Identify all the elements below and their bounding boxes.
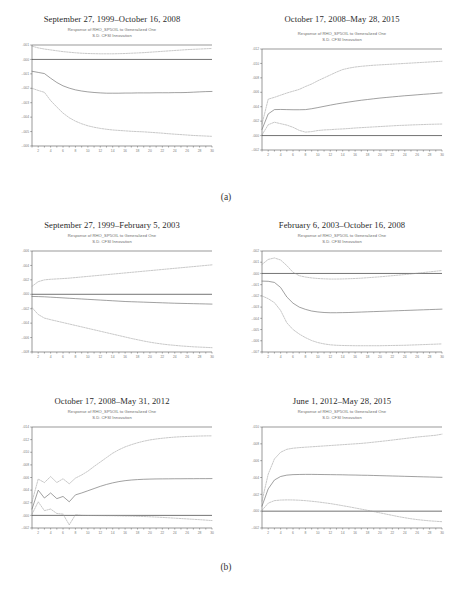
- x-axis-tick-label: 14: [111, 355, 115, 359]
- y-axis-tick-label: -.006: [21, 144, 29, 148]
- y-axis-tick-label: -.006: [251, 339, 259, 343]
- series-line-upper-band: [262, 258, 442, 279]
- x-axis-tick-label: 18: [136, 149, 140, 153]
- y-axis-tick-label: -.003: [251, 305, 259, 309]
- x-axis-tick-label: 28: [428, 355, 432, 359]
- x-axis-tick-label: 24: [403, 355, 407, 359]
- x-axis-tick-label: 16: [123, 355, 127, 359]
- series-line-upper-band: [32, 46, 212, 54]
- x-axis-tick-label: 2: [267, 355, 269, 359]
- x-axis-tick-label: 30: [440, 531, 444, 535]
- plot-area-2: .012.010.008.006.004.002.000-.0022468101…: [238, 45, 446, 163]
- x-axis-tick-label: 4: [50, 531, 52, 535]
- x-axis-tick-label: 16: [353, 531, 357, 535]
- chart-subtitle-3: Response of RHO_SP5OIL to Generalized On…: [8, 233, 216, 245]
- x-axis-tick-label: 8: [305, 355, 307, 359]
- y-axis-tick-label: .000: [23, 292, 30, 296]
- x-axis-tick-label: 20: [378, 153, 382, 157]
- y-axis-tick-label: .000: [23, 57, 30, 61]
- x-axis-tick-label: 8: [305, 531, 307, 535]
- plot-area-3: .006.004.002.000-.002-.004-.006-.0082468…: [8, 247, 216, 365]
- x-axis-tick-label: 14: [111, 149, 115, 153]
- series-line-lower-band: [32, 502, 212, 525]
- x-axis-tick-label: 24: [403, 531, 407, 535]
- y-axis-tick-label: .006: [253, 459, 260, 463]
- y-axis-tick-label: .002: [253, 249, 260, 253]
- chart-subtitle-line2: S.D. CFSI Innovation: [8, 239, 216, 245]
- plot-area-4: .002.001.000-.001-.002-.003-.004-.005-.0…: [238, 247, 446, 365]
- panel-label-b: (b): [0, 562, 452, 572]
- x-axis-tick-label: 6: [292, 355, 294, 359]
- x-axis-tick-label: 28: [428, 531, 432, 535]
- series-line-response: [262, 474, 442, 506]
- y-axis-tick-label: .002: [253, 119, 260, 123]
- y-axis-tick-label: .004: [253, 476, 260, 480]
- y-axis-tick-label: -.004: [21, 321, 29, 325]
- x-axis-tick-label: 22: [161, 355, 165, 359]
- y-axis-tick-label: .002: [23, 501, 30, 505]
- y-axis-tick-label: .010: [23, 450, 30, 454]
- x-axis-tick-label: 18: [366, 153, 370, 157]
- chart-cell-3: September 27, 1999–February 5, 2003 Resp…: [8, 220, 216, 365]
- x-axis-tick-label: 22: [391, 531, 395, 535]
- y-axis-tick-label: -.001: [21, 72, 29, 76]
- y-axis-tick-label: -.002: [21, 86, 29, 90]
- y-axis-tick-label: -.004: [21, 115, 29, 119]
- x-axis-tick-label: 26: [185, 149, 189, 153]
- series-line-lower-band: [262, 296, 442, 346]
- x-axis-tick-label: 12: [98, 149, 102, 153]
- plot-area-6: .010.008.006.004.002.000-.00224681012141…: [238, 423, 446, 541]
- x-axis-tick-label: 8: [75, 355, 77, 359]
- x-axis-tick-label: 2: [267, 531, 269, 535]
- x-axis-tick-label: 26: [415, 355, 419, 359]
- x-axis-tick-label: 12: [98, 355, 102, 359]
- chart-title-2: October 17, 2008–May 28, 2015: [238, 14, 446, 24]
- y-axis-tick-label: .004: [253, 105, 260, 109]
- x-axis-tick-label: 2: [37, 531, 39, 535]
- x-axis-tick-label: 22: [391, 153, 395, 157]
- chart-subtitle-line2: S.D. CFSI Innovation: [238, 415, 446, 421]
- x-axis-tick-label: 26: [185, 531, 189, 535]
- chart-subtitle-1: Response of RHO_SP5OIL to Generalized On…: [8, 27, 216, 39]
- y-axis-tick-label: .008: [253, 76, 260, 80]
- y-axis-tick-label: .000: [253, 134, 260, 138]
- series-line-upper-band: [262, 434, 442, 501]
- x-axis-tick-label: 20: [378, 355, 382, 359]
- series-line-response: [32, 478, 212, 508]
- y-axis-tick-label: .002: [23, 278, 30, 282]
- x-axis-tick-label: 24: [403, 153, 407, 157]
- chart-subtitle-5: Response of RHO_SP5OIL to Generalized On…: [8, 409, 216, 421]
- y-axis-tick-label: -.002: [21, 526, 29, 530]
- x-axis-tick-label: 14: [341, 153, 345, 157]
- y-axis-tick-label: -.004: [251, 316, 259, 320]
- x-axis-tick-label: 12: [328, 355, 332, 359]
- x-axis-tick-label: 18: [366, 531, 370, 535]
- chart-subtitle-line2: S.D. CFSI Innovation: [238, 37, 446, 43]
- x-axis-tick-label: 22: [161, 531, 165, 535]
- series-line-lower-band: [32, 88, 212, 136]
- x-axis-tick-label: 20: [148, 531, 152, 535]
- x-axis-tick-label: 22: [391, 355, 395, 359]
- x-axis-tick-label: 14: [341, 531, 345, 535]
- x-axis-tick-label: 16: [123, 531, 127, 535]
- x-axis-tick-label: 16: [353, 153, 357, 157]
- plot-area-1: .001.000-.001-.002-.003-.004-.005-.00624…: [8, 41, 216, 159]
- figure-page: September 27, 1999–October 16, 2008 Resp…: [0, 0, 452, 589]
- x-axis-tick-label: 30: [210, 531, 214, 535]
- y-axis-tick-label: .006: [23, 249, 30, 253]
- y-axis-tick-label: -.007: [251, 350, 259, 354]
- chart-title-3: September 27, 1999–February 5, 2003: [8, 220, 216, 230]
- x-axis-tick-label: 8: [75, 531, 77, 535]
- series-line-lower-band: [262, 500, 442, 522]
- x-axis-tick-label: 2: [37, 355, 39, 359]
- x-axis-tick-label: 18: [366, 355, 370, 359]
- y-axis-tick-label: .002: [253, 492, 260, 496]
- y-axis-tick-label: -.008: [21, 350, 29, 354]
- x-axis-tick-label: 12: [98, 531, 102, 535]
- x-axis-tick-label: 26: [415, 153, 419, 157]
- y-axis-tick-label: -.005: [21, 130, 29, 134]
- y-axis-tick-label: .000: [23, 513, 30, 517]
- y-axis-tick-label: .014: [23, 425, 30, 429]
- x-axis-tick-label: 24: [173, 149, 177, 153]
- x-axis-tick-label: 6: [292, 153, 294, 157]
